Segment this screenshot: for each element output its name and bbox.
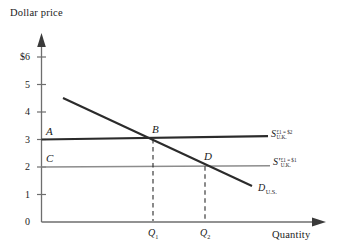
x-axis-arrowhead (312, 218, 326, 227)
y-tick-label-3: 3 (8, 135, 30, 145)
point-label-b: B (152, 124, 159, 135)
y-tick-label-4: 4 (8, 107, 30, 117)
supply-shifted-script: £1 = $1U.K. (281, 158, 297, 169)
y-tick-label-0: 0 (8, 217, 30, 227)
x-tick-q1-subscript: 1 (155, 233, 158, 240)
curve-label-supply-original: S£1 = $2U.K. (271, 129, 292, 140)
curve-label-demand: DU.S. (258, 183, 277, 193)
supply-curve-original (42, 136, 269, 139)
y-tick-label-2: 2 (8, 162, 30, 172)
point-label-d: D (204, 151, 212, 162)
demand-subscript: U.S. (266, 188, 277, 195)
y-axis-title: Dollar price (10, 8, 63, 19)
x-tick-q2-subscript: 2 (207, 233, 210, 240)
y-tick-label-6: $6 (8, 52, 30, 62)
curve-label-supply-shifted: S'£1 = $1U.K. (273, 157, 297, 168)
economics-supply-demand-figure: Dollar price Quantity $6 5 4 3 2 1 0 Q1 … (0, 0, 338, 252)
y-axis-arrowhead (37, 33, 46, 47)
point-label-a: A (46, 126, 53, 137)
demand-base: D (258, 182, 265, 193)
point-label-c: C (46, 153, 53, 164)
demand-curve (63, 98, 252, 186)
supply-shifted-base: S' (273, 156, 280, 167)
x-tick-label-q2: Q2 (200, 228, 210, 238)
supply-shifted-subscript: U.K. (281, 163, 297, 168)
supply-original-subscript: U.K. (277, 135, 293, 140)
y-tick-label-5: 5 (8, 80, 30, 90)
supply-original-script: £1 = $2U.K. (277, 130, 293, 141)
supply-curve-shifted (42, 166, 271, 167)
x-axis-title: Quantity (272, 230, 310, 241)
y-tick-label-1: 1 (8, 190, 30, 200)
supply-original-base: S (271, 128, 276, 139)
x-tick-label-q1: Q1 (148, 228, 158, 238)
